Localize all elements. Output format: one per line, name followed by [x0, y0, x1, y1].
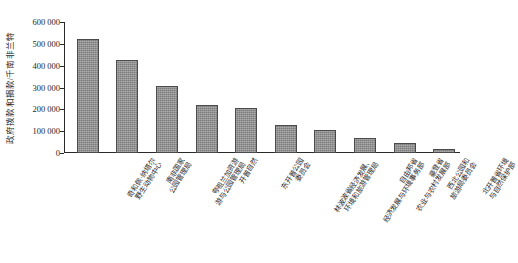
- bar: [77, 39, 99, 153]
- plot-area: [64, 22, 460, 153]
- y-axis-tick-mark: [60, 109, 64, 110]
- bar: [116, 60, 138, 153]
- y-axis-tick-mark: [60, 131, 64, 132]
- y-axis-tick-mark: [60, 66, 64, 67]
- bar: [354, 138, 376, 153]
- x-axis-category-label: 北开普省环境与自然保护部: [481, 157, 518, 201]
- bar: [156, 86, 178, 153]
- x-axis-category-label: 东开普公园委员会: [280, 157, 313, 196]
- y-axis-title: 政府拨款和捐款/千南非兰特: [0, 0, 18, 175]
- x-axis-category-label: 南非国家公园管理局: [161, 157, 194, 196]
- y-axis-tick-label: 500 000: [32, 39, 60, 49]
- bar: [235, 108, 257, 153]
- y-axis-tick-label: 100 000: [32, 126, 60, 136]
- y-axis-tick-labels: 600 000500 000400 000300 000200 000100 0…: [18, 0, 64, 175]
- bar: [394, 143, 416, 153]
- bar: [314, 130, 336, 153]
- bar: [196, 105, 218, 153]
- x-axis-category-label: 林波波省经济发展、环境和旅游管理局: [332, 157, 380, 219]
- bar: [275, 125, 297, 153]
- y-axis-tick-mark: [60, 22, 64, 23]
- y-axis-tick-label: 400 000: [32, 61, 60, 71]
- y-axis-tick-mark: [60, 44, 64, 45]
- x-axis-category-labels: 奇和佩·纳塔尔野生动物中心南非国家公园管理局夸祖兰加资游游与公园管理局开普自然东…: [64, 153, 476, 263]
- x-axis-category-label: 奇和佩·纳塔尔野生动物中心: [126, 157, 164, 203]
- y-axis-title-text: 政府拨款和捐款/千南非兰特: [3, 32, 15, 144]
- y-axis-tick-label: 200 000: [32, 104, 60, 114]
- y-axis-tick-label: 600 000: [32, 17, 60, 27]
- bars-layer: [64, 22, 460, 153]
- y-axis-tick-mark: [60, 88, 64, 89]
- y-axis-tick-label: 300 000: [32, 83, 60, 93]
